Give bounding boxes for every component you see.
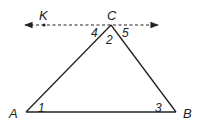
point-k-dot: [42, 23, 45, 26]
side-ac: [26, 25, 111, 112]
triangle-diagram: K C A B 4 2 5 1 3: [0, 0, 202, 125]
label-k: K: [39, 8, 49, 23]
label-a: A: [8, 106, 18, 121]
label-b: B: [183, 106, 192, 121]
angle-label-5: 5: [122, 26, 129, 40]
angle-label-3: 3: [155, 101, 162, 115]
angle-label-1: 1: [38, 101, 45, 115]
angle-label-2: 2: [105, 33, 113, 47]
side-cb: [111, 25, 176, 112]
angle-label-4: 4: [91, 26, 98, 40]
label-c: C: [107, 8, 117, 23]
